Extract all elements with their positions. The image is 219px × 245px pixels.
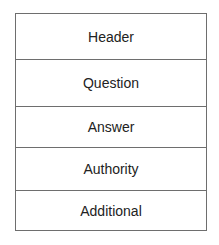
message-structure-diagram: Header Question Answer Authority Additio… [15,13,207,231]
section-label: Additional [80,203,142,219]
section-label: Answer [88,119,135,135]
section-additional: Additional [16,190,206,230]
section-answer: Answer [16,106,206,147]
section-label: Header [88,29,134,45]
section-label: Authority [83,161,138,177]
section-question: Question [16,59,206,106]
section-authority: Authority [16,147,206,190]
section-header: Header [16,14,206,59]
section-label: Question [83,75,139,91]
